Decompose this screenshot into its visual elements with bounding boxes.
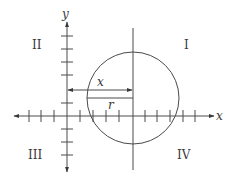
y-axis <box>61 22 73 172</box>
x-axis <box>14 110 214 122</box>
quadrant-label-i: I <box>184 38 189 52</box>
radius-label: r <box>108 98 115 112</box>
y-axis-label: y <box>61 7 69 21</box>
coordinate-diagram: y x II I III IV x r <box>0 0 232 183</box>
quadrant-label-ii: II <box>32 38 42 52</box>
quadrant-label-iv: IV <box>177 148 191 162</box>
x-distance-label: x <box>97 75 104 89</box>
quadrant-label-iii: III <box>28 148 42 162</box>
x-axis-label: x <box>216 109 223 123</box>
